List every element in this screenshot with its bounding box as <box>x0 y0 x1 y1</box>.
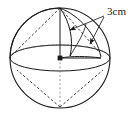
sphere-center-point <box>58 56 63 61</box>
geometry-figure: 3cm <box>0 0 140 117</box>
sphere-diagram-svg <box>0 0 140 117</box>
dashed-chord-bottom-right <box>60 70 103 107</box>
dashed-chord-top-left <box>11 8 60 56</box>
radius-dimension-label: 3cm <box>107 6 126 17</box>
dashed-chord-bottom-left <box>17 70 60 107</box>
wedge-front-edge <box>60 8 72 56</box>
